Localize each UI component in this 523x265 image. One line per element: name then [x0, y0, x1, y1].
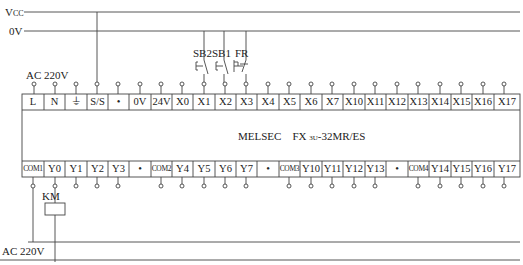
km-label: KM	[42, 191, 60, 202]
terminal-y16: Y16	[472, 162, 494, 176]
plc-brand: MELSEC	[238, 130, 281, 142]
ground-icon: ⏚	[65, 95, 87, 109]
terminal-y10: Y10	[300, 162, 322, 176]
terminal-y11: Y11	[322, 162, 343, 176]
plc-model-sub: 3U	[309, 134, 318, 142]
terminal-x0: X0	[172, 95, 193, 109]
terminal-x10: X10	[343, 95, 365, 109]
terminal-com1: COM1	[22, 162, 44, 176]
terminal-24v: 24V	[151, 95, 172, 109]
terminal-x1: X1	[193, 95, 215, 109]
terminal-x4: X4	[257, 95, 279, 109]
terminal-n: N	[44, 95, 65, 109]
terminal-dot: •	[386, 162, 408, 176]
terminal-x5: X5	[279, 95, 300, 109]
terminal-y13: Y13	[365, 162, 386, 176]
terminal-x17: X17	[494, 95, 520, 109]
plc-model-prefix: FX	[292, 130, 306, 142]
vcc-label: VCC	[5, 7, 24, 19]
terminal-y7: Y7	[236, 162, 257, 176]
fr-label: FR	[235, 48, 248, 59]
terminal-y17: Y17	[494, 162, 520, 176]
plc-model-title: MELSEC FX 3U-32MR/ES	[238, 130, 365, 142]
terminal-y15: Y15	[451, 162, 472, 176]
terminal-x7: X7	[322, 95, 343, 109]
terminal-y2: Y2	[87, 162, 108, 176]
terminal-com3: COM3	[279, 162, 300, 176]
terminal-y5: Y5	[193, 162, 215, 176]
terminal-x14: X14	[429, 95, 451, 109]
terminal-x13: X13	[408, 95, 429, 109]
plc-model-suffix: -32MR/ES	[318, 130, 366, 142]
zero-v-label: 0V	[9, 26, 22, 37]
terminal-x15: X15	[451, 95, 472, 109]
ac-220v-bottom-label: AC 220V	[2, 246, 44, 257]
terminal-ss: S/S	[87, 95, 108, 109]
terminal-dot: •	[129, 162, 151, 176]
terminal-y3: Y3	[108, 162, 129, 176]
terminal-x11: X11	[365, 95, 386, 109]
sb2-label: SB2	[193, 48, 212, 59]
terminal-y6: Y6	[215, 162, 236, 176]
terminal-y12: Y12	[343, 162, 365, 176]
terminal-x12: X12	[386, 95, 408, 109]
terminal-dot: •	[108, 95, 129, 109]
sb1-label: SB1	[212, 48, 231, 59]
km-coil	[45, 203, 65, 215]
terminal-x16: X16	[472, 95, 494, 109]
plc-wiring-diagram: VCC 0V AC 220V AC 220V SB2 SB1 FR KM L N…	[0, 0, 523, 265]
terminal-y14: Y14	[429, 162, 451, 176]
terminal-y0: Y0	[44, 162, 65, 176]
terminal-com2: COM2	[151, 162, 172, 176]
terminal-0v: 0V	[129, 95, 151, 109]
terminal-com4: COM4	[408, 162, 429, 176]
terminal-x2: X2	[215, 95, 236, 109]
terminal-l: L	[22, 95, 44, 109]
terminal-x3: X3	[236, 95, 257, 109]
ac-220v-top-label: AC 220V	[26, 70, 68, 81]
terminal-x6: X6	[300, 95, 322, 109]
terminal-y4: Y4	[172, 162, 193, 176]
terminal-dot: •	[257, 162, 279, 176]
terminal-y1: Y1	[65, 162, 87, 176]
